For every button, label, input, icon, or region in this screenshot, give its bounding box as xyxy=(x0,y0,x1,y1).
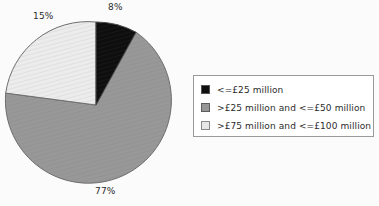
legend-swatch-icon xyxy=(201,103,210,112)
pie-slice-light xyxy=(6,22,96,105)
legend-item: >£75 million and <=£100 million xyxy=(201,117,373,134)
pie-plot-area: 8% 15% 77% xyxy=(0,0,192,206)
legend-item-label: <=£25 million xyxy=(217,85,283,95)
pie-svg xyxy=(0,0,192,206)
pie-data-label-77: 77% xyxy=(95,186,116,196)
legend-item-label: >£75 million and <=£100 million xyxy=(217,121,371,131)
legend-item: <=£25 million xyxy=(201,81,373,98)
legend-item-label: >£25 million and <=£50 million xyxy=(217,103,365,113)
chart-legend: <=£25 million >£25 million and <=£50 mil… xyxy=(193,75,374,137)
legend-list: <=£25 million >£25 million and <=£50 mil… xyxy=(194,76,373,136)
pie-chart-figure: 8% 15% 77% <=£25 million >£25 million an… xyxy=(0,0,379,206)
legend-item: >£25 million and <=£50 million xyxy=(201,99,373,116)
pie-data-label-15: 15% xyxy=(33,11,54,21)
legend-swatch-icon xyxy=(201,121,210,130)
pie-data-label-8: 8% xyxy=(108,2,123,12)
legend-swatch-icon xyxy=(201,85,210,94)
